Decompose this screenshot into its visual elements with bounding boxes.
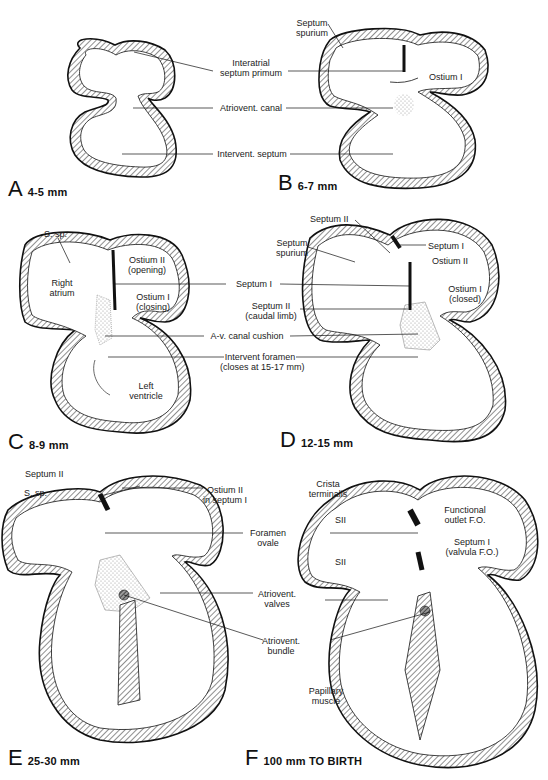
panel-d-id: D 12-15 mm: [280, 429, 353, 451]
panel-f-id: F 100 mm TO BIRTH: [245, 747, 362, 769]
label-septum-spurium-b: Septum spurium: [292, 18, 332, 38]
label-line: Ostium II: [124, 255, 170, 265]
label-ostium-i-closing: Ostium I (closing): [133, 292, 173, 312]
label-intervent-septum: Intervent. septum: [212, 149, 292, 159]
panel-b-heart: [319, 29, 488, 189]
label-line: Septum: [275, 238, 309, 248]
label-ostium-ii-opening: Ostium II (opening): [124, 255, 170, 275]
label-line: Septum II: [242, 301, 300, 311]
panel-f-stage: 100 mm TO BIRTH: [263, 755, 362, 767]
label-line: Ostium I: [133, 292, 173, 302]
label-line: spurium: [292, 28, 332, 38]
label-line: Atriovent.: [256, 636, 306, 646]
label-right-atrium: Right atrium: [44, 278, 80, 298]
label-crista-terminalis: Crista terminalis: [306, 479, 350, 499]
label-line: Ostium II: [200, 485, 250, 495]
label-line: (closes at 15-17 mm): [220, 362, 300, 372]
label-line: Ostium I: [445, 284, 485, 294]
label-line: Functional: [438, 505, 492, 515]
label-line: Interatrial: [214, 58, 288, 68]
label-line: Atriovent.: [252, 589, 302, 599]
label-line: (closed): [445, 294, 485, 304]
panel-a-stage: 4-5 mm: [28, 186, 68, 198]
label-line: valves: [252, 599, 302, 609]
label-line: (opening): [124, 265, 170, 275]
label-left-ventricle: Left ventricle: [124, 381, 168, 401]
panel-d-heart: [303, 219, 506, 441]
panel-e-id: E 25-30 mm: [8, 747, 80, 769]
panel-e-stage: 25-30 mm: [28, 755, 80, 767]
label-line: Left: [124, 381, 168, 391]
panel-b-letter: B: [278, 172, 293, 194]
label-sii-upper: SII: [335, 515, 346, 525]
heart-septation-illustration: [0, 0, 548, 780]
label-interatrial-septum-primum: Interatrial septum primum: [214, 58, 288, 78]
panel-e-letter: E: [8, 747, 23, 769]
label-septum-ii-e: Septum II: [25, 469, 64, 479]
label-intervent-foramen: Intervent foramen (closes at 15-17 mm): [220, 352, 300, 372]
label-septum-i-c: Septum I: [228, 279, 280, 289]
panel-f-letter: F: [245, 747, 258, 769]
panel-d-letter: D: [280, 429, 296, 451]
label-line: atrium: [44, 288, 80, 298]
label-line: Crista: [306, 479, 350, 489]
label-line: Septum: [292, 18, 332, 28]
label-line: ventricle: [124, 391, 168, 401]
panel-b-stage: 6-7 mm: [298, 180, 338, 192]
label-line: in septum I: [200, 495, 250, 505]
label-septum-i-valvula-fo: Septum I (valvula F.O.): [442, 537, 502, 557]
label-septum-spurium-d: Septum spurium: [275, 238, 309, 258]
label-septum-ii-caudal-limb: Septum II (caudal limb): [242, 301, 300, 321]
label-atriovent-canal: Atriovent. canal: [214, 103, 288, 113]
label-atriovent-valves: Atriovent. valves: [252, 589, 302, 609]
panel-c-stage: 8-9 mm: [29, 439, 69, 451]
label-functional-outlet-fo: Functional outlet F.O.: [438, 505, 492, 525]
label-line: terminalis: [306, 489, 350, 499]
label-line: Foramen: [248, 528, 288, 538]
label-ostium-ii-in-septum-i: Ostium II in septum I: [200, 485, 250, 505]
panel-a-letter: A: [8, 178, 23, 200]
label-line: muscle: [306, 696, 346, 706]
label-sii-lower: SII: [335, 557, 346, 567]
label-line: outlet F.O.: [438, 515, 492, 525]
label-line: (valvula F.O.): [442, 547, 502, 557]
label-ostium-i-closed: Ostium I (closed): [445, 284, 485, 304]
label-line: Intervent foramen: [220, 352, 300, 362]
label-s-sp-c: S. sp.: [44, 229, 67, 239]
label-av-canal-cushion: A-v. canal cushion: [204, 331, 290, 341]
label-line: (caudal limb): [242, 311, 300, 321]
label-foramen-ovale: Foramen ovale: [248, 528, 288, 548]
label-line: septum primum: [214, 68, 288, 78]
panel-e-heart: [2, 476, 228, 742]
label-septum-i-d: Septum I: [428, 241, 464, 251]
label-line: (closing): [133, 302, 173, 312]
label-line: Right: [44, 278, 80, 288]
label-ostium-ii-d: Ostium II: [432, 256, 468, 266]
label-line: Septum I: [442, 537, 502, 547]
panel-c-letter: C: [8, 431, 24, 453]
label-papillary-muscle: Papillary muscle: [306, 686, 346, 706]
label-line: ovale: [248, 538, 288, 548]
label-ostium-i-b: Ostium I: [429, 72, 463, 82]
panel-c-id: C 8-9 mm: [8, 431, 69, 453]
panel-d-stage: 12-15 mm: [301, 437, 353, 449]
label-septum-ii-d: Septum II: [310, 214, 349, 224]
label-s-sp-e: S. sp.: [24, 488, 47, 498]
panel-a-id: A 4-5 mm: [8, 178, 67, 200]
panel-b-id: B 6-7 mm: [278, 172, 337, 194]
label-atriovent-bundle: Atriovent. bundle: [256, 636, 306, 656]
label-line: Papillary: [306, 686, 346, 696]
label-line: bundle: [256, 646, 306, 656]
label-line: spurium: [275, 248, 309, 258]
